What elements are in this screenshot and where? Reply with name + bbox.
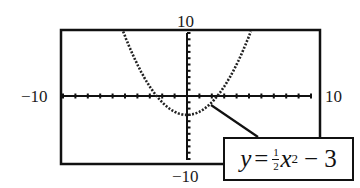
x-min-label: −10 [21, 88, 48, 105]
eq-lhs: y [240, 145, 251, 173]
eq-fraction: 1 2 [272, 147, 279, 172]
frac-denominator: 2 [273, 161, 279, 172]
eq-equals: = [254, 145, 268, 173]
y-max-label: 10 [177, 13, 194, 30]
x-max-label: 10 [325, 88, 342, 105]
eq-var: x [280, 145, 291, 173]
leader-line [211, 105, 258, 137]
equation-label: y = 1 2 x2 − 3 [223, 137, 354, 181]
frac-numerator: 1 [273, 147, 279, 158]
eq-rest: − 3 [304, 145, 337, 173]
y-min-label: −10 [172, 168, 199, 185]
